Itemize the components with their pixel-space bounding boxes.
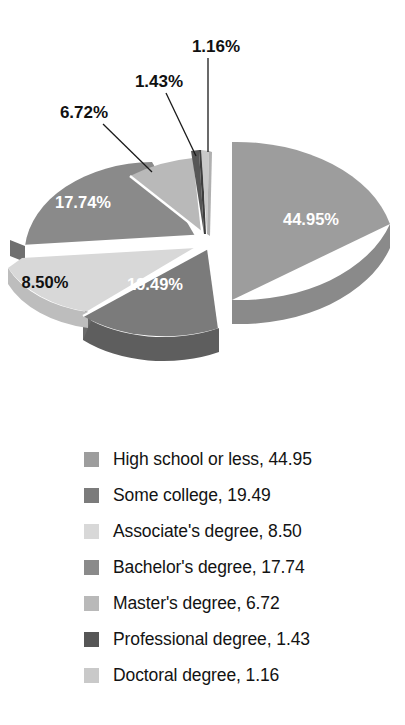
legend-item-label: Professional degree, 1.43: [113, 629, 310, 650]
callout-doctoral: 1.16%: [192, 37, 240, 56]
legend-item-label: Master's degree, 6.72: [113, 593, 280, 614]
callout-masters: 6.72%: [60, 103, 108, 122]
legend-item-label: Some college, 19.49: [113, 485, 271, 506]
legend-item[interactable]: Master's degree, 6.72: [84, 585, 404, 621]
legend-item-label: Bachelor's degree, 17.74: [113, 557, 305, 578]
legend-swatch-icon: [84, 596, 99, 611]
legend-item[interactable]: Bachelor's degree, 17.74: [84, 549, 404, 585]
legend-item[interactable]: Associate's degree, 8.50: [84, 513, 404, 549]
legend-swatch-icon: [84, 524, 99, 539]
chart-legend: High school or less, 44.95 Some college,…: [84, 441, 404, 693]
legend-item[interactable]: Professional degree, 1.43: [84, 621, 404, 657]
value-label-some-college: 19.49%: [127, 275, 183, 293]
legend-item[interactable]: Doctoral degree, 1.16: [84, 657, 404, 693]
leader-line-professional: [166, 93, 196, 156]
legend-item[interactable]: High school or less, 44.95: [84, 441, 404, 477]
value-label-associates: 8.50%: [22, 273, 69, 291]
legend-item-label: Doctoral degree, 1.16: [113, 665, 279, 686]
legend-swatch-icon: [84, 488, 99, 503]
legend-swatch-icon: [84, 452, 99, 467]
value-label-high-school: 44.95%: [283, 210, 339, 228]
legend-item[interactable]: Some college, 19.49: [84, 477, 404, 513]
value-label-bachelors: 17.74%: [55, 193, 111, 211]
legend-swatch-icon: [84, 632, 99, 647]
legend-item-label: Associate's degree, 8.50: [113, 521, 302, 542]
pie-chart-figure: 6.72% 1.43% 1.16% 17.74% 19.49% 44.95% 8…: [0, 0, 405, 725]
legend-swatch-icon: [84, 668, 99, 683]
legend-item-label: High school or less, 44.95: [113, 449, 312, 470]
callout-professional: 1.43%: [135, 72, 183, 91]
pie-chart-graphic: 6.72% 1.43% 1.16% 17.74% 19.49% 44.95% 8…: [0, 0, 405, 420]
legend-swatch-icon: [84, 560, 99, 575]
